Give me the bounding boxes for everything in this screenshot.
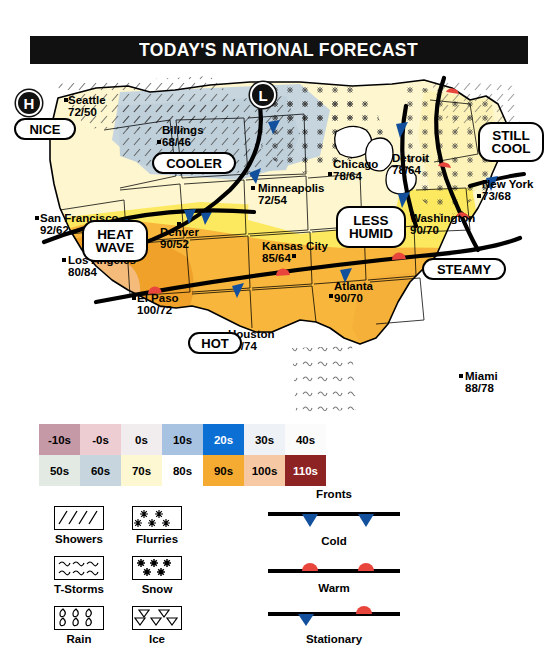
ice-icon — [132, 606, 182, 630]
temp-swatch: 60s — [80, 455, 121, 486]
tstorms-icon — [54, 556, 104, 580]
rain-icon — [54, 606, 104, 630]
fronts-legend-label: Stationary — [268, 633, 400, 645]
city-dot-miami — [459, 374, 463, 378]
fronts-legend: Fronts Cold Warm Stationary — [268, 488, 448, 645]
temp-swatch-label: 80s — [173, 465, 192, 477]
callout-hot: HOT — [188, 332, 242, 354]
high-pressure-symbol: H — [24, 95, 35, 112]
city-name: New York — [482, 178, 533, 190]
temp-swatch-label: 60s — [91, 465, 110, 477]
city-label-billings: Billings 68/46 — [162, 124, 204, 149]
temp-swatch: 50s — [39, 455, 80, 486]
showers-icon — [54, 506, 104, 530]
callout-text-line2: HUMID — [349, 227, 393, 240]
city-label-detroit: Detroit 78/64 — [392, 152, 429, 177]
temperature-legend-row-2: 50s 60s 70s 80s 90s 100s 110s — [39, 455, 326, 486]
precip-legend-item-showers: Showers — [40, 506, 118, 556]
city-dot-chicago — [328, 172, 332, 176]
snow-icon — [132, 556, 182, 580]
temp-swatch-label: 100s — [252, 465, 278, 477]
temp-swatch-label: 10s — [173, 434, 192, 446]
fronts-legend-title: Fronts — [268, 488, 400, 500]
national-forecast-map: H L Seattle 72/50 Billings 68/46 Minneap… — [0, 70, 558, 415]
stationary-front-icon — [268, 603, 400, 627]
temp-swatch-label: 70s — [132, 465, 151, 477]
temp-swatch: 40s — [285, 424, 326, 455]
precip-legend-item-rain: Rain — [40, 606, 118, 653]
precip-legend-label: Flurries — [136, 533, 178, 545]
temp-swatch-label: -0s — [92, 434, 109, 446]
precip-legend-label: Ice — [149, 633, 165, 645]
callout-still-cool: STILL COOL — [478, 122, 544, 162]
high-pressure-marker: H — [16, 90, 42, 116]
fronts-legend-item-stationary: Stationary — [268, 603, 400, 645]
callout-text: STEAMY — [437, 263, 491, 276]
temperature-legend-row-1: -10s -0s 0s 10s 20s 30s 40s — [39, 424, 326, 455]
city-temps: 78/64 — [392, 164, 429, 177]
temp-swatch: 20s — [203, 424, 244, 455]
city-name: Atlanta — [334, 280, 373, 292]
temp-swatch-label: 30s — [255, 434, 274, 446]
callout-text-line2: COOL — [492, 142, 531, 155]
flurries-icon — [132, 506, 182, 530]
city-name: Miami — [465, 370, 498, 382]
precip-legend-item-ice: Ice — [118, 606, 196, 653]
city-label-chicago: Chicago 78/64 — [333, 158, 378, 183]
city-label-kansas-city: Kansas City 85/64 — [262, 240, 328, 265]
callout-text: HOT — [201, 337, 228, 350]
city-dot-minneapolis — [251, 186, 255, 190]
fronts-legend-label: Warm — [268, 582, 400, 594]
city-name: Kansas City — [262, 240, 328, 252]
fronts-legend-item-cold: Cold — [268, 509, 400, 547]
city-name: Seattle — [68, 94, 106, 106]
callout-heat-wave: HEAT WAVE — [82, 220, 148, 262]
fronts-legend-label: Cold — [268, 535, 400, 547]
temp-swatch: 30s — [244, 424, 285, 455]
temp-swatch-label: -10s — [48, 434, 71, 446]
fronts-legend-item-warm: Warm — [268, 556, 400, 594]
temp-swatch: 110s — [285, 455, 326, 486]
city-temps: 90/70 — [410, 224, 475, 237]
temp-swatch-label: 110s — [293, 465, 318, 477]
city-dot-kansas-city — [292, 254, 296, 258]
temp-swatch: 0s — [121, 424, 162, 455]
city-dot-atlanta — [329, 294, 333, 298]
callout-cooler: COOLER — [152, 152, 236, 174]
city-name: Billings — [162, 124, 204, 136]
callout-text: COOLER — [166, 157, 222, 170]
city-temps: 72/50 — [68, 106, 106, 119]
title-banner: TODAY'S NATIONAL FORECAST — [30, 36, 528, 64]
precip-legend-label: Rain — [67, 633, 92, 645]
temp-swatch: -10s — [39, 424, 80, 455]
city-label-denver: Denver 90/52 — [160, 226, 199, 251]
city-dot-los-angeles — [62, 258, 66, 262]
city-dot-seattle — [64, 98, 68, 102]
precipitation-legend: Showers Flurries — [40, 506, 196, 653]
city-temps: 90/70 — [334, 292, 373, 305]
precip-legend-item-tstorms: T-Storms — [40, 556, 118, 606]
cold-front-icon — [268, 509, 400, 529]
temp-swatch-label: 90s — [214, 465, 233, 477]
precip-legend-label: T-Storms — [54, 583, 104, 595]
city-temps: 90/52 — [160, 238, 199, 251]
temp-swatch-label: 20s — [214, 434, 233, 446]
city-label-minneapolis: Minneapolis 72/54 — [258, 182, 324, 207]
city-temps: 80/84 — [68, 266, 136, 279]
city-label-el-paso: El Paso 100/72 — [137, 292, 179, 317]
precip-legend-label: Showers — [55, 533, 103, 545]
precip-legend-item-snow: Snow — [118, 556, 196, 606]
city-temps: 78/64 — [333, 170, 378, 183]
city-temps: 88/78 — [465, 382, 498, 395]
low-pressure-marker: L — [250, 82, 276, 108]
city-temps: 100/72 — [137, 304, 179, 317]
precip-legend-label: Snow — [142, 583, 173, 595]
temp-swatch-label: 0s — [135, 434, 148, 446]
city-dot-new-york — [477, 194, 481, 198]
temp-swatch-label: 40s — [296, 434, 315, 446]
temp-swatch: -0s — [80, 424, 121, 455]
city-temps: 68/46 — [162, 136, 204, 149]
callout-nice: NICE — [14, 118, 76, 140]
temp-swatch-label: 50s — [50, 465, 69, 477]
city-label-seattle: Seattle 72/50 — [68, 94, 106, 119]
